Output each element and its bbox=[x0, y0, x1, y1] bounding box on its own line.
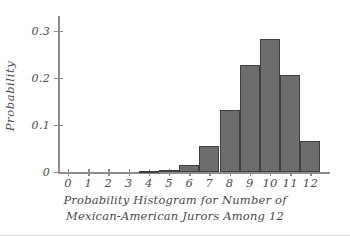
x-tick-mark bbox=[310, 169, 311, 176]
y-tick-label: 0 bbox=[43, 166, 50, 179]
y-tick-mark bbox=[54, 125, 63, 126]
histogram-bar bbox=[260, 39, 280, 172]
x-tick-label: 9 bbox=[246, 176, 254, 190]
x-tick-mark bbox=[209, 169, 210, 176]
probability-histogram-figure: Probability 00.10.20.3 0123456789101112 … bbox=[0, 0, 350, 236]
x-tick-mark bbox=[169, 169, 170, 176]
x-tick-mark bbox=[108, 169, 109, 176]
chart-caption: Probability Histogram for Number of Mexi… bbox=[0, 192, 350, 224]
x-tick-label: 7 bbox=[206, 176, 214, 190]
x-tick-label: 0 bbox=[64, 176, 72, 190]
x-tick-mark bbox=[290, 169, 291, 176]
y-tick-label: 0.1 bbox=[32, 119, 50, 132]
x-tick-label: 11 bbox=[283, 176, 298, 190]
x-tick-mark bbox=[230, 169, 231, 176]
x-tick-label: 6 bbox=[185, 176, 193, 190]
y-tick-mark bbox=[54, 172, 63, 173]
caption-line-1: Probability Histogram for Number of bbox=[0, 192, 350, 208]
y-tick-label: 0.3 bbox=[32, 25, 50, 38]
y-axis-title: Probability bbox=[3, 61, 17, 132]
x-tick-label: 10 bbox=[262, 176, 277, 190]
x-tick-mark bbox=[68, 169, 69, 176]
x-tick-label: 4 bbox=[145, 176, 153, 190]
histogram-bar bbox=[220, 110, 240, 172]
histogram-bar bbox=[300, 141, 320, 172]
x-tick-mark bbox=[149, 169, 150, 176]
x-tick-mark bbox=[88, 169, 89, 176]
x-tick-label: 8 bbox=[226, 176, 234, 190]
x-tick-label: 12 bbox=[303, 176, 318, 190]
x-tick-label: 2 bbox=[105, 176, 113, 190]
histogram-bar bbox=[240, 65, 260, 172]
x-tick-mark bbox=[270, 169, 271, 176]
x-tick-label: 3 bbox=[125, 176, 133, 190]
y-axis-line bbox=[58, 16, 60, 174]
y-tick-mark bbox=[54, 78, 63, 79]
histogram-bar bbox=[280, 75, 300, 172]
x-tick-mark bbox=[129, 169, 130, 176]
x-tick-mark bbox=[189, 169, 190, 176]
x-axis-line bbox=[58, 172, 330, 174]
y-tick-label: 0.2 bbox=[32, 72, 50, 85]
x-tick-label: 1 bbox=[84, 176, 92, 190]
x-tick-mark bbox=[250, 169, 251, 176]
caption-line-2: Mexican-American Jurors Among 12 bbox=[0, 208, 350, 224]
x-tick-label: 5 bbox=[165, 176, 173, 190]
y-tick-mark bbox=[54, 31, 63, 32]
